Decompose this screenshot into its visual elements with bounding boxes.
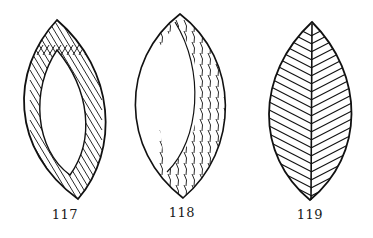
figure-label-118: 118	[162, 205, 202, 220]
leaf-118	[135, 14, 226, 198]
figure-label-117: 117	[45, 207, 85, 222]
illustration	[0, 0, 373, 238]
leaf-119	[250, 4, 373, 204]
figure-label-119: 119	[290, 207, 330, 222]
leaf-117	[24, 20, 106, 210]
